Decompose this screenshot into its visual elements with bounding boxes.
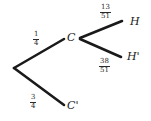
node-label-h-prime: H' (127, 51, 140, 62)
branch-line-c-to-h (80, 21, 122, 38)
node-label-c: C (67, 32, 75, 43)
branch-probability-c-to-h: 13 51 (100, 4, 111, 20)
branch-probability-root-to-c: 1 4 (33, 31, 39, 47)
fraction-denominator: 51 (99, 67, 110, 75)
branch-probability-root-to-cprime: 3 4 (30, 94, 36, 110)
fraction-denominator: 4 (30, 103, 36, 111)
branch-probability-c-to-hprime: 38 51 (99, 58, 110, 74)
fraction-denominator: 4 (33, 40, 39, 48)
node-label-c-prime: C' (67, 100, 78, 111)
probability-tree-diagram: C C' H H' 1 4 3 4 13 51 38 51 (0, 0, 151, 121)
node-label-h: H (130, 16, 140, 27)
branch-line-c-to-hprime (80, 39, 121, 57)
fraction-denominator: 51 (100, 13, 111, 21)
branch-line-root-to-cprime (14, 68, 64, 105)
